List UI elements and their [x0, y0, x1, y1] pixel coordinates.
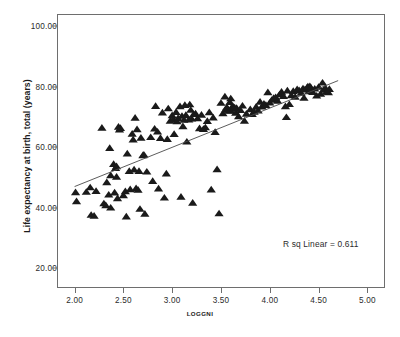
scatter-plot-figure: Life expectancy at birth, total (years) … — [0, 0, 400, 337]
r-squared-annotation: R sq Linear = 0.611 — [283, 239, 359, 249]
x-tick-label: 2.00 — [55, 296, 95, 305]
x-tick-mark — [367, 288, 368, 293]
x-tick-label: 3.00 — [152, 296, 192, 305]
y-tick-label: 60.00 — [5, 143, 57, 152]
y-axis: 20.0040.0060.0080.00100.00 — [0, 0, 57, 337]
y-tick-label: 20.00 — [5, 264, 57, 273]
y-tick-label: 100.00 — [5, 22, 57, 31]
x-tick-label: 4.00 — [250, 296, 290, 305]
x-tick-label: 4.50 — [299, 296, 339, 305]
x-tick-mark — [270, 288, 271, 293]
x-tick-mark — [75, 288, 76, 293]
x-tick-mark — [172, 288, 173, 293]
x-tick-mark — [221, 288, 222, 293]
y-tick-label: 40.00 — [5, 203, 57, 212]
y-tick-label: 80.00 — [5, 82, 57, 91]
x-tick-label: 2.50 — [103, 296, 143, 305]
x-tick-mark — [319, 288, 320, 293]
x-axis-title: LOGGNI — [0, 310, 400, 317]
x-tick-label: 5.00 — [347, 296, 387, 305]
x-tick-mark — [123, 288, 124, 293]
x-tick-label: 3.50 — [201, 296, 241, 305]
